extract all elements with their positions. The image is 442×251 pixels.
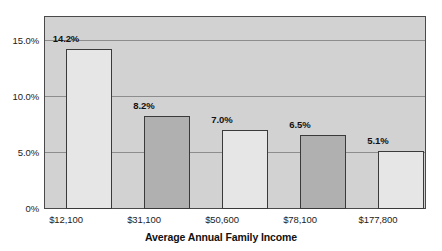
bar-chart: 15.0% 10.0% 5.0% 0% 14.2% 8.2% 7.0% 6.5%… — [0, 0, 442, 251]
x-tick-label: $12,100 — [43, 214, 89, 225]
x-tick-label: $78,100 — [277, 214, 323, 225]
bar-3[interactable] — [222, 130, 268, 209]
bars-layer — [44, 16, 426, 209]
y-tick-label: 10.0% — [13, 91, 39, 102]
bar-5[interactable] — [378, 151, 424, 209]
bar-1[interactable] — [66, 49, 112, 209]
bar-value-4: 6.5% — [277, 119, 323, 130]
x-axis-title: Average Annual Family Income — [0, 231, 442, 243]
y-tick-label: 15.0% — [13, 35, 39, 46]
y-axis: 15.0% 10.0% 5.0% 0% — [0, 0, 42, 251]
bar-value-3: 7.0% — [199, 114, 245, 125]
bar-value-2: 8.2% — [121, 100, 167, 111]
x-tick-label: $31,100 — [121, 214, 167, 225]
y-tick-label: 5.0% — [18, 147, 39, 158]
bar-4[interactable] — [300, 135, 346, 209]
x-tick-label: $177,800 — [352, 214, 404, 225]
bar-value-1: 14.2% — [43, 33, 89, 44]
bar-value-5: 5.1% — [355, 135, 401, 146]
x-tick-label: $50,600 — [199, 214, 245, 225]
bar-2[interactable] — [144, 116, 190, 209]
y-tick-label: 0% — [25, 203, 39, 214]
